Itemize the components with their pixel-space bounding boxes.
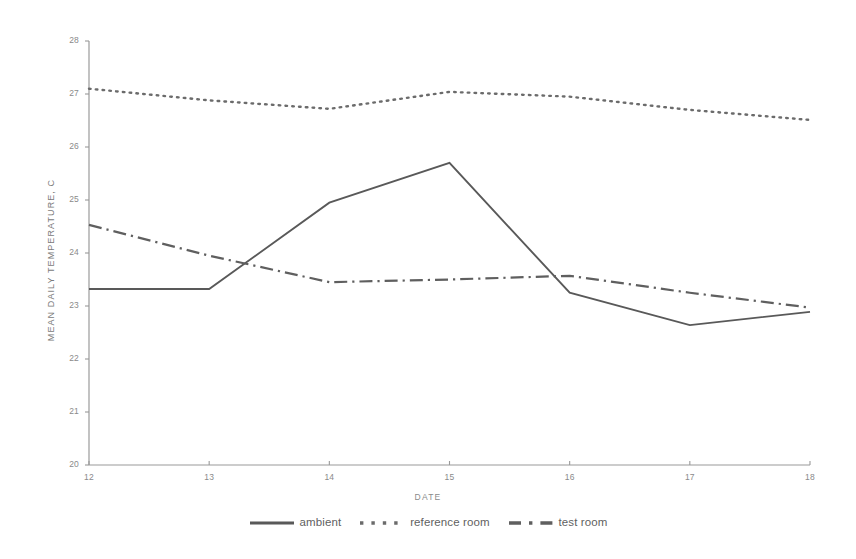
x-tick-label: 14 (316, 472, 342, 482)
y-tick-label: 22 (55, 353, 79, 363)
x-tick-label: 12 (76, 472, 102, 482)
y-tick-label: 28 (55, 35, 79, 45)
y-tick-label: 23 (55, 300, 79, 310)
legend-item-reference-room[interactable]: reference room (359, 517, 489, 529)
y-axis-title: MEAN DAILY TEMPERATURE, C (30, 0, 40, 160)
legend-item-test-room[interactable]: test room (508, 517, 608, 529)
x-tick-label: 17 (677, 472, 703, 482)
legend-swatch-dashdot-icon (508, 517, 554, 529)
legend-label: ambient (300, 517, 342, 529)
x-tick-label: 16 (557, 472, 583, 482)
chart-legend: ambientreference roomtest room (0, 517, 856, 529)
y-tick-label: 21 (55, 406, 79, 416)
y-tick-label: 25 (55, 194, 79, 204)
y-tick-label: 27 (55, 88, 79, 98)
legend-swatch-solid-icon (249, 517, 295, 529)
series-line-ambient (89, 163, 810, 325)
series-layer (89, 89, 810, 325)
x-tick-label: 13 (196, 472, 222, 482)
plot-canvas (0, 0, 856, 559)
y-tick-label: 24 (55, 247, 79, 257)
series-line-test-room (89, 225, 810, 308)
legend-swatch-dotted-icon (359, 517, 405, 529)
legend-item-ambient[interactable]: ambient (249, 517, 342, 529)
x-axis-title: DATE (0, 492, 856, 502)
x-tick-label: 15 (437, 472, 463, 482)
legend-label: test room (559, 517, 608, 529)
y-tick-label: 20 (55, 459, 79, 469)
x-tick-label: 18 (797, 472, 823, 482)
legend-label: reference room (410, 517, 489, 529)
chart-page: 202122232425262728 12131415161718 MEAN D… (0, 0, 856, 559)
series-line-reference-room (89, 89, 810, 120)
line-chart: 202122232425262728 12131415161718 MEAN D… (0, 0, 856, 559)
y-tick-label: 26 (55, 141, 79, 151)
